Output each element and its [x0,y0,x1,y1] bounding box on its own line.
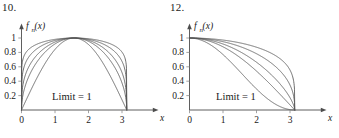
y-axis-title-f: f [26,21,30,31]
plot-area-10: 0 1 2 3 0.2 0.4 0.6 0.8 1 f n (x) x Limi… [0,14,170,138]
figure-12: 12. [168,0,338,138]
chart-svg-12: 0 1 2 3 0.2 0.4 0.6 0.8 1 f n (x) x Limi… [168,14,338,138]
y-tick-label-1: 1 [179,33,184,43]
limit-annotation-10: Limit = 1 [52,91,92,102]
y-axis-title-argument: (x) [203,21,214,32]
y-axis-arrowhead [187,24,192,30]
x-ticks-12 [190,110,291,113]
limit-annotation-12: Limit = 1 [216,91,256,102]
y-tick-label-0.8: 0.8 [172,47,184,57]
y-tick-label-0.2: 0.2 [4,91,16,101]
x-ticks-10 [22,110,123,113]
y-axis-title-f: f [194,21,198,31]
x-tick-label-3: 3 [288,115,293,125]
x-tick-label-2: 2 [86,115,91,125]
x-tick-label-0: 0 [19,115,24,125]
figure-pair: 10. [0,0,339,138]
y-axis-title-10: f n (x) [26,21,45,34]
chart-svg-10: 0 1 2 3 0.2 0.4 0.6 0.8 1 f n (x) x Limi… [0,14,170,138]
y-axis-title-12: f n (x) [194,21,213,34]
x-axis-title-10: x [159,113,165,123]
x-tick-label-2: 2 [254,115,259,125]
y-axis-arrowhead [19,24,24,30]
x-axis-arrowhead [321,108,327,113]
y-tick-label-1: 1 [11,33,16,43]
x-tick-label-1: 1 [53,115,58,125]
y-tick-label-0.8: 0.8 [4,47,16,57]
y-ticks-12 [186,38,189,96]
y-axis-title-argument: (x) [35,21,46,32]
axes-12 [187,24,326,113]
y-tick-label-0.4: 0.4 [4,76,16,86]
x-axis-title-12: x [327,113,333,123]
x-tick-label-3: 3 [120,115,125,125]
y-tick-label-0.4: 0.4 [172,76,184,86]
x-axis-arrowhead [153,108,159,113]
x-tick-label-0: 0 [187,115,192,125]
y-tick-label-0.6: 0.6 [172,62,184,72]
y-tick-label-0.6: 0.6 [4,62,16,72]
x-tick-label-1: 1 [221,115,226,125]
y-ticks-10 [18,38,21,96]
figure-10: 10. [0,0,170,138]
y-tick-label-0.2: 0.2 [172,91,184,101]
figure-number-label: 10. [2,1,16,13]
figure-number-label: 12. [170,1,184,13]
plot-area-12: 0 1 2 3 0.2 0.4 0.6 0.8 1 f n (x) x Limi… [168,14,338,138]
